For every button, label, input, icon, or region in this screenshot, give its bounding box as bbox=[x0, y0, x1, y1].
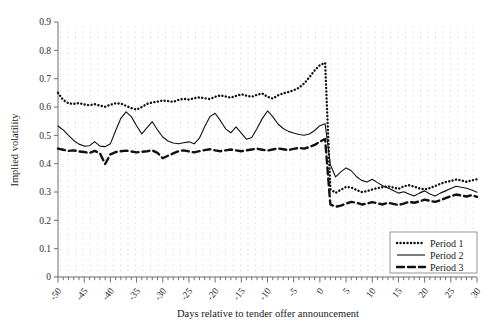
x-tick-label: 10 bbox=[364, 286, 378, 300]
chart-figure: 00.10.20.30.40.50.60.70.80.9 -50-45-40-3… bbox=[0, 0, 495, 335]
y-tick-label: 0.7 bbox=[39, 74, 51, 84]
x-tick-label: -25 bbox=[179, 286, 195, 302]
legend-label-1: Period 1 bbox=[430, 238, 464, 249]
y-axis-title: Implied volatility bbox=[9, 113, 20, 187]
x-tick-label: -20 bbox=[205, 286, 221, 302]
x-tick-label: -30 bbox=[153, 286, 169, 302]
x-tick-label: -35 bbox=[126, 286, 142, 302]
x-tick-label: 25 bbox=[443, 286, 457, 300]
x-tick-label: 15 bbox=[390, 286, 404, 300]
x-tick-label: 30 bbox=[469, 286, 483, 300]
x-axis-tick-labels: -50-45-40-35-30-25-20-15-10-505101520253… bbox=[48, 286, 483, 302]
y-axis-tick-labels: 00.10.20.30.40.50.60.70.80.9 bbox=[39, 17, 51, 282]
legend-items: Period 1Period 2Period 3 bbox=[397, 238, 464, 273]
x-tick-label: 20 bbox=[416, 286, 430, 300]
x-tick-label: 0 bbox=[315, 286, 326, 296]
y-tick-label: 0.9 bbox=[39, 17, 51, 27]
x-tick-label: -45 bbox=[74, 286, 90, 302]
x-tick-label: -40 bbox=[100, 286, 116, 302]
x-tick-label: -15 bbox=[231, 286, 247, 302]
y-tick-label: 0.5 bbox=[39, 131, 51, 141]
x-tick-label: -10 bbox=[257, 286, 273, 302]
chart-legend: Period 1Period 2Period 3 bbox=[390, 232, 477, 273]
x-tick-label: 5 bbox=[341, 286, 352, 296]
legend-label-2: Period 2 bbox=[430, 250, 464, 261]
x-tick-label: -5 bbox=[287, 286, 300, 299]
x-tick-label: -50 bbox=[48, 286, 64, 302]
y-tick-label: 0 bbox=[46, 272, 51, 282]
implied-volatility-chart: 00.10.20.30.40.50.60.70.80.9 -50-45-40-3… bbox=[0, 0, 495, 335]
y-tick-label: 0.1 bbox=[39, 244, 51, 254]
x-axis-title: Days relative to tender offer announceme… bbox=[177, 308, 359, 319]
y-tick-label: 0.3 bbox=[39, 187, 51, 197]
y-tick-label: 0.8 bbox=[39, 46, 51, 56]
legend-label-3: Period 3 bbox=[430, 262, 464, 273]
y-tick-label: 0.4 bbox=[39, 159, 51, 169]
y-tick-label: 0.6 bbox=[39, 102, 51, 112]
y-tick-label: 0.2 bbox=[39, 216, 51, 226]
